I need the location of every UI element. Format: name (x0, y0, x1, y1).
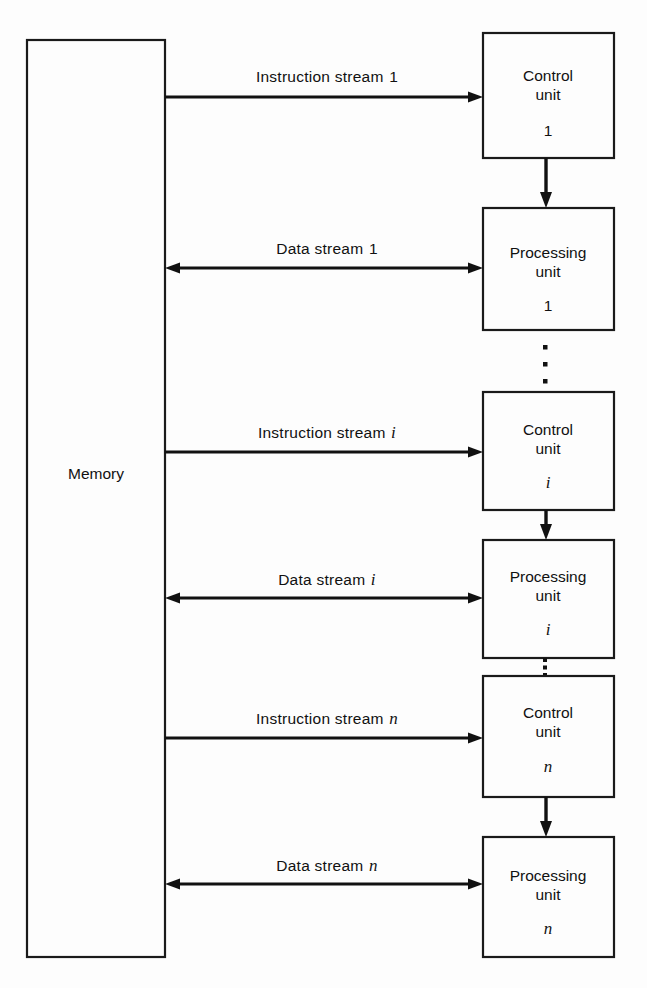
instruction-stream-arrow-i (165, 447, 483, 458)
control-unit-label-n: Control unit (523, 703, 573, 741)
control-unit-line2-1: unit (523, 85, 573, 104)
instruction-stream-text-1: Instruction stream (256, 68, 384, 85)
data-stream-arrow-i (165, 593, 483, 604)
ellipsis-between-group-i-and-n (543, 658, 547, 677)
instruction-stream-label-n: Instruction stream n (256, 709, 398, 729)
instruction-stream-arrow-1 (165, 92, 483, 103)
control-unit-index-i: i (546, 473, 551, 493)
data-stream-label-1: Data stream 1 (276, 240, 378, 258)
control-unit-index-1: 1 (544, 122, 553, 140)
control-unit-line1-n: Control (523, 703, 573, 722)
processing-unit-line1-n: Processing (510, 866, 587, 885)
control-unit-label-i: Control unit (523, 420, 573, 458)
processing-unit-line1-i: Processing (510, 567, 587, 586)
control-to-processing-arrow-n (540, 797, 552, 837)
instruction-stream-index-n: n (384, 709, 398, 728)
data-stream-index-n: n (363, 856, 377, 875)
control-to-processing-arrow-1 (540, 158, 552, 208)
memory-label: Memory (68, 465, 124, 483)
data-stream-arrow-n (165, 879, 483, 890)
diagram-canvas: Memory Instruction stream 1 Data stream … (0, 0, 647, 988)
instruction-stream-label-1: Instruction stream 1 (256, 68, 398, 86)
data-stream-text-n: Data stream (276, 857, 363, 874)
data-stream-index-1: 1 (363, 240, 377, 257)
control-unit-label-1: Control unit (523, 66, 573, 104)
instruction-stream-index-1: 1 (384, 68, 398, 85)
instruction-stream-arrow-n (165, 733, 483, 744)
memory-box[interactable] (27, 40, 165, 957)
data-stream-label-n: Data stream n (276, 856, 377, 876)
control-unit-line1-i: Control (523, 420, 573, 439)
data-stream-text-i: Data stream (278, 571, 365, 588)
control-unit-line2-i: unit (523, 439, 573, 458)
control-unit-index-n: n (544, 757, 553, 777)
processing-unit-index-i: i (546, 620, 551, 640)
diagram-vector-layer (0, 0, 647, 988)
processing-unit-line2-i: unit (510, 586, 587, 605)
processing-unit-line2-n: unit (510, 885, 587, 904)
processing-unit-line1-1: Processing (510, 243, 587, 262)
processing-unit-index-n: n (544, 919, 553, 939)
processing-unit-index-1: 1 (544, 297, 553, 315)
instruction-stream-index-i: i (386, 423, 396, 442)
instruction-stream-text-i: Instruction stream (258, 424, 386, 441)
processing-unit-label-1: Processing unit (510, 243, 587, 281)
ellipsis-between-group-1-and-i (543, 345, 548, 384)
processing-unit-line2-1: unit (510, 262, 587, 281)
control-unit-line1-1: Control (523, 66, 573, 85)
data-stream-text-1: Data stream (276, 240, 363, 257)
data-stream-arrow-1 (165, 263, 483, 274)
processing-unit-label-i: Processing unit (510, 567, 587, 605)
instruction-stream-text-n: Instruction stream (256, 710, 384, 727)
instruction-stream-label-i: Instruction stream i (258, 423, 396, 443)
control-unit-line2-n: unit (523, 722, 573, 741)
data-stream-index-i: i (365, 570, 375, 589)
processing-unit-label-n: Processing unit (510, 866, 587, 904)
control-to-processing-arrow-i (540, 510, 552, 540)
data-stream-label-i: Data stream i (278, 570, 376, 590)
